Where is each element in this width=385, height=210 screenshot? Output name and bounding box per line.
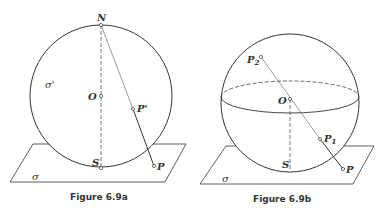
label-sigma: σ — [32, 171, 40, 182]
label-s-b: S — [282, 159, 289, 170]
label-p-b: P — [345, 164, 354, 175]
label-p-prime: P' — [136, 103, 148, 114]
diagram-canvas: N O S σ' σ P' P Figure 6.9a P2 O S P1 P … — [0, 0, 385, 210]
label-sigma-b: σ — [222, 173, 230, 184]
point-p-b — [341, 167, 344, 170]
point-o-b — [288, 97, 291, 100]
caption-b: Figure 6.9b — [253, 194, 312, 204]
point-p-prime — [132, 108, 135, 111]
label-n: N — [96, 12, 107, 23]
point-s — [99, 166, 102, 169]
point-n — [99, 23, 102, 26]
label-sigma-prime: σ' — [45, 79, 55, 90]
label-p: P — [156, 161, 165, 172]
label-o: O — [88, 91, 97, 102]
label-o-b: O — [278, 95, 287, 106]
figure-b: P2 O S P1 P σ Figure 6.9b — [200, 34, 374, 204]
point-p2 — [259, 55, 262, 58]
point-o — [99, 94, 102, 97]
caption-a: Figure 6.9a — [70, 192, 128, 202]
label-s: S — [92, 157, 99, 168]
point-p — [152, 164, 155, 167]
figure-a: N O S σ' σ P' P Figure 6.9a — [10, 12, 186, 202]
point-p1 — [319, 138, 322, 141]
